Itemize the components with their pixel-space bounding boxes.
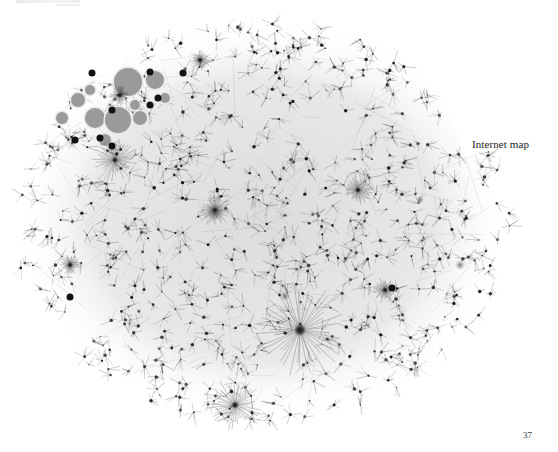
node [159, 394, 160, 395]
node [123, 323, 126, 326]
node [496, 202, 499, 205]
node [101, 360, 103, 362]
node [206, 299, 209, 302]
node [226, 363, 227, 364]
node [204, 338, 206, 340]
node [408, 240, 409, 241]
node [345, 325, 348, 328]
node [415, 222, 418, 225]
node [363, 220, 366, 223]
node [135, 154, 136, 155]
node [276, 30, 278, 32]
node [464, 216, 467, 219]
hub-node [294, 324, 307, 337]
node [384, 358, 388, 362]
node [96, 235, 98, 237]
node [273, 245, 275, 247]
node [295, 283, 298, 286]
node [107, 242, 110, 245]
node [396, 387, 397, 388]
node [350, 76, 353, 79]
node [162, 372, 163, 373]
node [338, 88, 341, 91]
node [103, 354, 106, 357]
node [107, 368, 109, 370]
node [184, 197, 187, 200]
node [70, 107, 72, 109]
dark-cluster [147, 102, 154, 109]
node [393, 301, 395, 303]
node [127, 305, 129, 307]
node [359, 39, 361, 41]
node [278, 118, 281, 121]
node [367, 375, 369, 377]
cluster-disk [85, 108, 105, 128]
node [65, 136, 67, 138]
node [368, 283, 370, 285]
node [258, 231, 259, 232]
node [208, 95, 210, 97]
node [379, 239, 382, 242]
node [158, 347, 161, 350]
node [156, 266, 159, 269]
node [113, 284, 115, 286]
node [88, 364, 89, 365]
node [388, 180, 391, 183]
node [179, 158, 182, 161]
node [375, 254, 378, 257]
node [272, 402, 275, 405]
node [168, 38, 169, 39]
page-number: 37 [523, 430, 532, 440]
node [233, 218, 235, 220]
node [364, 321, 365, 322]
node [130, 349, 132, 351]
node [73, 251, 75, 253]
node [274, 71, 277, 74]
node [440, 203, 442, 205]
node [49, 145, 52, 148]
node [51, 194, 53, 196]
node [193, 92, 195, 94]
node [398, 315, 400, 317]
node [274, 276, 276, 278]
node [198, 155, 199, 156]
node [113, 255, 114, 256]
node [175, 395, 177, 397]
node [202, 363, 205, 366]
node [324, 372, 327, 375]
node [157, 228, 160, 231]
node [147, 161, 148, 162]
node [408, 224, 410, 226]
node [265, 223, 268, 226]
node [282, 285, 284, 287]
node [313, 380, 315, 382]
node [326, 89, 327, 90]
node [331, 224, 334, 227]
node [285, 197, 287, 199]
node [379, 333, 382, 336]
node [289, 413, 292, 416]
node [483, 267, 485, 269]
node [141, 91, 142, 92]
node [438, 114, 441, 117]
node [150, 48, 153, 51]
node [236, 25, 240, 29]
node [45, 163, 48, 166]
node [320, 43, 323, 46]
node [228, 24, 230, 26]
node [181, 181, 184, 184]
node [328, 260, 329, 261]
node [432, 286, 436, 290]
node [177, 168, 180, 171]
node [209, 388, 211, 390]
node [292, 44, 294, 46]
node [333, 404, 336, 407]
node [178, 396, 181, 399]
node [272, 265, 274, 267]
node [478, 239, 480, 241]
node [427, 263, 428, 264]
node [426, 143, 429, 146]
node [445, 253, 447, 255]
node [103, 86, 105, 88]
node [426, 101, 428, 103]
